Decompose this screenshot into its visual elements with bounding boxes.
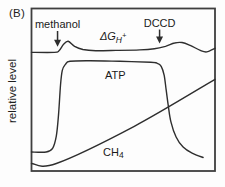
series-label-part: ΔG bbox=[99, 30, 116, 42]
figure-panel-b: (B) relative level ΔGH+ATPCH4methanolDCC… bbox=[0, 0, 225, 187]
annotation-arrowhead-icon-methanol bbox=[54, 40, 61, 47]
annotation-label-DCCD: DCCD bbox=[144, 17, 176, 29]
chart-canvas: ΔGH+ATPCH4methanolDCCD bbox=[0, 0, 225, 187]
series-label-part: 4 bbox=[119, 150, 124, 160]
series-label-ATP: ATP bbox=[105, 69, 126, 81]
annotation-arrowhead-icon-DCCD bbox=[156, 36, 163, 43]
series-label-CH4: CH4 bbox=[103, 146, 124, 161]
annotation-label-methanol: methanol bbox=[35, 18, 80, 30]
series-label-part: + bbox=[122, 31, 127, 40]
series-label-part: ATP bbox=[105, 69, 126, 81]
series-label-delta-G-H-plus: ΔGH+ bbox=[99, 30, 127, 45]
series-label-part: CH bbox=[103, 146, 119, 158]
